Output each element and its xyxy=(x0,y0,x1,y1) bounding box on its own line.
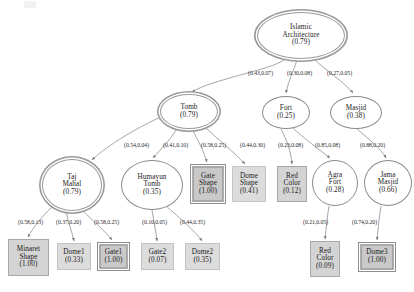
edge-label-tomb-humayun: (0.41,0.10) xyxy=(163,142,188,148)
edge-taj-dome1 xyxy=(66,211,74,241)
node-dome3[interactable]: Dome3(1.00) xyxy=(358,242,396,272)
edge-label-tomb-taj: (0.54,0.04) xyxy=(124,142,149,148)
node-islamic-line: (0.79) xyxy=(292,39,310,47)
node-minaret_shape[interactable]: MinaretShape(1.00) xyxy=(8,239,49,276)
node-agra_fort[interactable]: AgraFort(0.28) xyxy=(312,160,358,206)
node-tomb[interactable]: Tomb(0.79) xyxy=(160,94,218,129)
node-jama_masjid-line: (0.66) xyxy=(379,187,397,195)
edge-label-tomb-gate_shape: (0.58,0.25) xyxy=(201,142,226,148)
node-fort[interactable]: Fort(0.25) xyxy=(262,96,310,129)
edge-label-taj-minaret_shape: (0.58,0.13) xyxy=(18,219,43,225)
edge-label-agra_fort-red_color_agra: (0.21,0.05) xyxy=(303,219,328,225)
node-taj[interactable]: TajMahal(0.79) xyxy=(42,159,102,211)
node-red_color_fort-line: (0.12) xyxy=(283,188,301,196)
node-gate_shape[interactable]: GateShape(1.00) xyxy=(190,164,226,204)
node-agra_fort-line: (0.28) xyxy=(326,187,344,195)
edge-label-taj-dome1: (0.37,0.20) xyxy=(56,219,81,225)
edge-label-humayun-dome2: (0.44,0.35) xyxy=(180,219,205,225)
node-gate1-line: (1.00) xyxy=(105,257,123,265)
node-dome2-line: (0.35) xyxy=(194,257,212,265)
node-dome2[interactable]: Dome2(0.35) xyxy=(185,243,220,270)
scan-artifact xyxy=(24,1,36,8)
edge-label-islamic-fort: (0.30,0.08) xyxy=(287,70,312,76)
edge-label-tomb-dome_shape: (0.44,0.30) xyxy=(240,142,265,148)
node-fort-line: (0.25) xyxy=(277,113,295,121)
edge-islamic-tomb xyxy=(192,60,284,92)
edge-label-islamic-masjid: (0.27,0.05) xyxy=(327,70,352,76)
node-jama_masjid[interactable]: JamaMasjid(0.66) xyxy=(364,160,412,206)
node-masjid[interactable]: Masjid(0.38) xyxy=(330,96,382,129)
node-gate2-line: (0.07) xyxy=(149,257,167,265)
node-dome3-line: (1.00) xyxy=(368,257,386,265)
edge-label-fort-red_color_fort: (0.23,0.08) xyxy=(278,142,303,148)
edge-label-fort-agra_fort: (0.85,0.08) xyxy=(315,142,340,148)
node-minaret_shape-line: (1.00) xyxy=(20,261,38,269)
node-gate_shape-line: (1.00) xyxy=(199,188,217,196)
node-red_color_agra[interactable]: RedColor(0.09) xyxy=(310,241,340,277)
node-red_color_fort[interactable]: RedColor(0.12) xyxy=(277,166,307,202)
node-dome1[interactable]: Dome1(0.33) xyxy=(57,243,91,270)
node-dome_shape-line: (0.41) xyxy=(240,188,258,196)
edge-humayun-gate2 xyxy=(152,210,157,241)
edge-tomb-taj xyxy=(92,116,163,160)
node-taj-line: (0.79) xyxy=(63,189,81,197)
edge-jamamasjid-dome3 xyxy=(377,206,381,240)
edge-label-taj-gate1: (0.58,0.25) xyxy=(94,219,119,225)
edge-label-masjid-jama_masjid: (0.88,0.20) xyxy=(360,142,385,148)
node-tomb-line: (0.79) xyxy=(180,112,198,120)
edge-label-humayun-gate2: (0.10,0.05) xyxy=(142,219,167,225)
node-gate2[interactable]: Gate2(0.07) xyxy=(141,243,174,270)
node-masjid-line: (0.38) xyxy=(347,113,365,121)
node-humayun-line: (0.35) xyxy=(143,189,161,197)
node-gate1[interactable]: Gate1(1.00) xyxy=(97,242,130,271)
node-red_color_agra-line: (0.09) xyxy=(316,263,334,271)
node-dome_shape[interactable]: DomeShape(0.41) xyxy=(232,166,266,202)
edge-label-islamic-tomb: (0.43,0.07) xyxy=(248,70,273,76)
node-dome1-line: (0.33) xyxy=(65,257,83,265)
edge-islamic-fort xyxy=(286,60,297,93)
edge-label-jama_masjid-dome3: (0.74,0.20) xyxy=(352,219,377,225)
diagram-canvas: IslamicArchitecture(0.79)Tomb(0.79)Fort(… xyxy=(0,0,414,292)
node-islamic[interactable]: IslamicArchitecture(0.79) xyxy=(257,12,345,59)
node-humayun[interactable]: HumayunTomb(0.35) xyxy=(121,160,183,210)
